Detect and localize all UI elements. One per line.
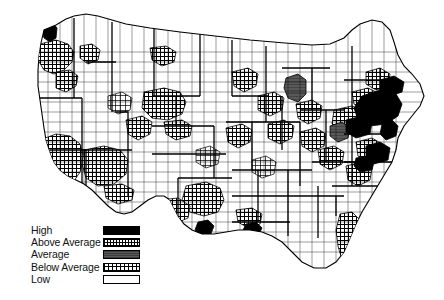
legend-label-average: Average [31, 249, 101, 260]
legend-label-above-average: Above Average [31, 237, 101, 248]
legend-label-below-average: Below Average [31, 262, 101, 273]
legend-item-below-average: Below Average [31, 261, 149, 273]
legend-swatch-high [103, 226, 140, 235]
legend-item-low: Low [31, 274, 149, 286]
map-legend: High Above Average Average Below Average… [31, 224, 149, 286]
legend-swatch-above-average [103, 238, 140, 247]
legend-label-high: High [31, 225, 101, 236]
legend-item-above-average: Above Average [31, 236, 149, 248]
figure-canvas: High Above Average Average Below Average… [0, 0, 444, 300]
legend-swatch-below-average [103, 263, 140, 272]
legend-item-high: High [31, 224, 149, 236]
legend-swatch-average [103, 250, 140, 259]
legend-swatch-low [103, 275, 140, 284]
legend-item-average: Average [31, 249, 149, 261]
legend-label-low: Low [31, 274, 101, 285]
